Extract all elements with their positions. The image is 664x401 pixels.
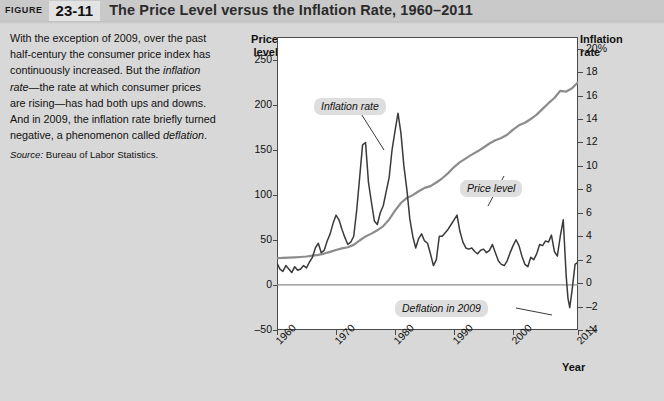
figure-number: 23-11 [49, 1, 101, 21]
figure-header: FIGURE 23-11 The Price Level versus the … [0, 0, 664, 21]
caption-text-3: . [204, 129, 207, 141]
source-text: Bureau of Labor Statistics. [43, 149, 158, 160]
figure-source: Source: Bureau of Labor Statistics. [10, 147, 218, 163]
series-line-inflation-rate [277, 113, 578, 308]
deflation-2009-leader [516, 308, 552, 315]
figure-panel: FIGURE 23-11 The Price Level versus the … [0, 0, 664, 401]
figure-label: FIGURE [0, 0, 49, 21]
annotation-inflation-rate: Inflation rate [314, 98, 386, 115]
figure-title: The Price Level versus the Inflation Rat… [109, 0, 473, 21]
caption-italic-deflation: deflation [163, 129, 204, 141]
annotation-price-level: Price level [460, 180, 522, 197]
chart-area: Price level Inflation rate Year 25020015… [232, 28, 656, 378]
annotation-deflation-2009: Deflation in 2009 [395, 300, 488, 317]
figure-caption: With the exception of 2009, over the pas… [10, 30, 218, 164]
chart-series-layer [232, 28, 656, 378]
source-label: Source: [10, 149, 43, 160]
